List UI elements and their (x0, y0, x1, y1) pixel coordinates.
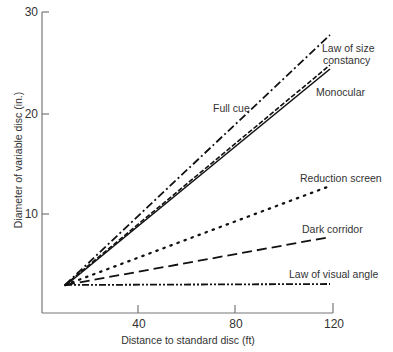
label-size-constancy-2: constancy (323, 54, 371, 66)
x-tick-label-40: 40 (132, 317, 146, 331)
y-axis-title: Diameter of variable disc (in.) (12, 92, 24, 229)
label-dark-corridor: Dark corridor (302, 223, 363, 235)
label-size-constancy-1: Law of size (322, 42, 375, 54)
y-tick-label-10: 10 (25, 207, 39, 221)
x-axis-title: Distance to standard disc (ft) (121, 334, 255, 346)
line-law-of-visual-angle (65, 284, 330, 285)
line-law-of-size-constancy (65, 35, 330, 285)
x-tick-label-80: 80 (229, 317, 243, 331)
label-full-cue: Full cue (213, 102, 250, 114)
label-monocular: Monocular (316, 86, 366, 98)
x-tick-label-120: 120 (324, 317, 344, 331)
line-monocular (65, 69, 330, 286)
label-law-of-visual-angle: Law of visual angle (289, 268, 378, 280)
y-tick-label-30: 30 (25, 5, 39, 19)
line-full-cue (65, 65, 330, 285)
label-reduction-screen: Reduction screen (300, 172, 382, 184)
y-tick-label-20: 20 (25, 107, 39, 121)
chart: 30 20 10 40 80 120 Distance to standard … (0, 0, 393, 352)
